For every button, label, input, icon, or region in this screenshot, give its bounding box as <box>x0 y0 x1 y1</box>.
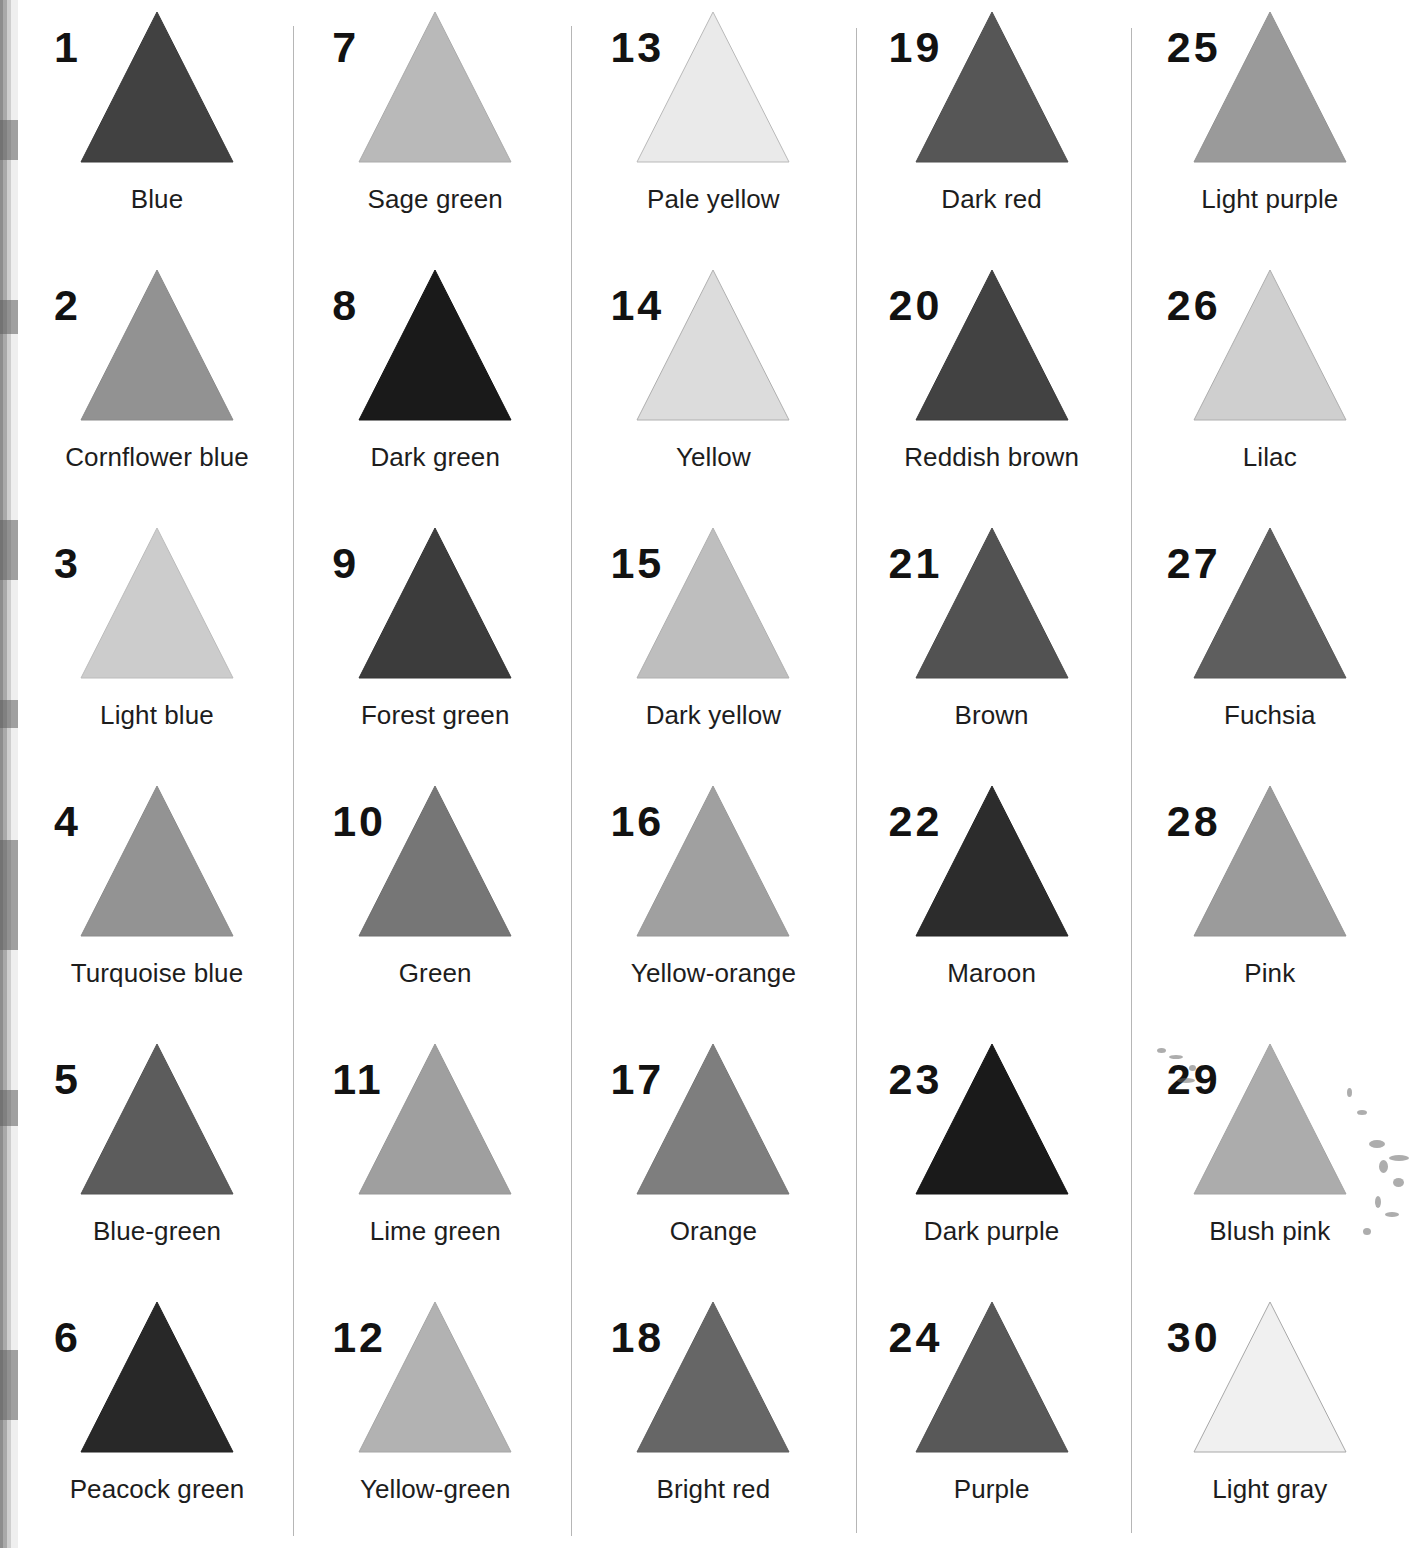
swatch-cell[interactable]: 4 Turquoise blue <box>18 774 296 1032</box>
swatch-cell[interactable]: 29 Blush pink <box>1131 1032 1409 1290</box>
triangle-swatch[interactable] <box>912 266 1072 424</box>
swatch-cell[interactable]: 16 Yellow-orange <box>574 774 852 1032</box>
triangle-swatch[interactable] <box>912 524 1072 682</box>
triangle-swatch[interactable] <box>633 1298 793 1456</box>
swatch-grid: 1 Blue 2 Cornflower blue 3 <box>18 0 1409 1548</box>
triangle-shape <box>359 786 511 936</box>
triangle-swatch[interactable] <box>355 8 515 166</box>
triangle-swatch[interactable] <box>77 524 237 682</box>
triangle-shape <box>1194 528 1346 678</box>
triangle-shape <box>81 528 233 678</box>
swatch-cell[interactable]: 2 Cornflower blue <box>18 258 296 516</box>
scan-artifact <box>0 520 18 580</box>
swatch-cell[interactable]: 15 Dark yellow <box>574 516 852 774</box>
triangle-swatch[interactable] <box>355 266 515 424</box>
swatch-cell[interactable]: 27 Fuchsia <box>1131 516 1409 774</box>
triangle-swatch[interactable] <box>633 524 793 682</box>
triangle-swatch[interactable] <box>912 8 1072 166</box>
triangle-swatch[interactable] <box>633 266 793 424</box>
triangle-swatch[interactable] <box>77 782 237 940</box>
triangle-swatch[interactable] <box>77 1298 237 1456</box>
swatch-cell[interactable]: 21 Brown <box>853 516 1131 774</box>
swatch-cell[interactable]: 23 Dark purple <box>853 1032 1131 1290</box>
swatch-cell[interactable]: 13 Pale yellow <box>574 0 852 258</box>
swatch-label: Orange <box>574 1216 852 1247</box>
swatch-cell[interactable]: 7 Sage green <box>296 0 574 258</box>
triangle-shape <box>359 270 511 420</box>
triangle-shape <box>81 270 233 420</box>
swatch-cell[interactable]: 24 Purple <box>853 1290 1131 1548</box>
triangle-icon <box>912 1040 1072 1198</box>
triangle-shape <box>637 270 789 420</box>
triangle-shape <box>1194 1044 1346 1194</box>
triangle-shape <box>1194 1302 1346 1452</box>
triangle-icon <box>1190 1298 1350 1456</box>
triangle-swatch[interactable] <box>633 1040 793 1198</box>
swatch-column-4: 19 Dark red 20 Reddish brown 21 <box>853 0 1131 1548</box>
triangle-swatch[interactable] <box>1190 524 1350 682</box>
swatch-cell[interactable]: 12 Yellow-green <box>296 1290 574 1548</box>
triangle-shape <box>359 1302 511 1452</box>
triangle-swatch[interactable] <box>355 1298 515 1456</box>
triangle-swatch[interactable] <box>355 782 515 940</box>
swatch-cell[interactable]: 6 Peacock green <box>18 1290 296 1548</box>
triangle-icon <box>633 1040 793 1198</box>
triangle-icon <box>355 266 515 424</box>
triangle-icon <box>1190 8 1350 166</box>
triangle-icon <box>355 8 515 166</box>
swatch-cell[interactable]: 9 Forest green <box>296 516 574 774</box>
triangle-swatch[interactable] <box>912 782 1072 940</box>
swatch-cell[interactable]: 10 Green <box>296 774 574 1032</box>
triangle-shape <box>637 786 789 936</box>
triangle-swatch[interactable] <box>912 1298 1072 1456</box>
triangle-swatch[interactable] <box>633 782 793 940</box>
swatch-cell[interactable]: 18 Bright red <box>574 1290 852 1548</box>
triangle-icon <box>1190 1040 1350 1198</box>
triangle-shape <box>916 1044 1068 1194</box>
triangle-swatch[interactable] <box>77 1040 237 1198</box>
swatch-cell[interactable]: 30 Light gray <box>1131 1290 1409 1548</box>
triangle-swatch[interactable] <box>77 8 237 166</box>
scan-artifact <box>0 120 18 160</box>
triangle-swatch[interactable] <box>1190 8 1350 166</box>
swatch-label: Blush pink <box>1131 1216 1409 1247</box>
swatch-label: Pink <box>1131 958 1409 989</box>
swatch-label: Maroon <box>853 958 1131 989</box>
swatch-label: Dark purple <box>853 1216 1131 1247</box>
swatch-cell[interactable]: 14 Yellow <box>574 258 852 516</box>
swatch-column-5: 25 Light purple 26 Lilac 27 <box>1131 0 1409 1548</box>
scan-artifact <box>0 700 18 728</box>
swatch-cell[interactable]: 25 Light purple <box>1131 0 1409 258</box>
column-divider <box>571 26 572 1536</box>
swatch-cell[interactable]: 26 Lilac <box>1131 258 1409 516</box>
triangle-icon <box>355 1298 515 1456</box>
swatch-cell[interactable]: 5 Blue-green <box>18 1032 296 1290</box>
triangle-swatch[interactable] <box>1190 1298 1350 1456</box>
triangle-swatch[interactable] <box>1190 782 1350 940</box>
swatch-label: Reddish brown <box>853 442 1131 473</box>
swatch-label: Cornflower blue <box>18 442 296 473</box>
triangle-swatch[interactable] <box>355 1040 515 1198</box>
swatch-cell[interactable]: 1 Blue <box>18 0 296 258</box>
triangle-swatch[interactable] <box>355 524 515 682</box>
swatch-cell[interactable]: 11 Lime green <box>296 1032 574 1290</box>
swatch-cell[interactable]: 3 Light blue <box>18 516 296 774</box>
triangle-shape <box>1194 786 1346 936</box>
triangle-swatch[interactable] <box>1190 266 1350 424</box>
triangle-swatch[interactable] <box>77 266 237 424</box>
triangle-icon <box>633 266 793 424</box>
triangle-icon <box>633 1298 793 1456</box>
triangle-shape <box>637 12 789 162</box>
triangle-swatch[interactable] <box>633 8 793 166</box>
triangle-icon <box>912 524 1072 682</box>
swatch-cell[interactable]: 17 Orange <box>574 1032 852 1290</box>
swatch-cell[interactable]: 28 Pink <box>1131 774 1409 1032</box>
swatch-label: Brown <box>853 700 1131 731</box>
swatch-cell[interactable]: 8 Dark green <box>296 258 574 516</box>
triangle-swatch[interactable] <box>1190 1040 1350 1198</box>
swatch-cell[interactable]: 19 Dark red <box>853 0 1131 258</box>
triangle-icon <box>1190 524 1350 682</box>
swatch-cell[interactable]: 22 Maroon <box>853 774 1131 1032</box>
swatch-cell[interactable]: 20 Reddish brown <box>853 258 1131 516</box>
triangle-swatch[interactable] <box>912 1040 1072 1198</box>
